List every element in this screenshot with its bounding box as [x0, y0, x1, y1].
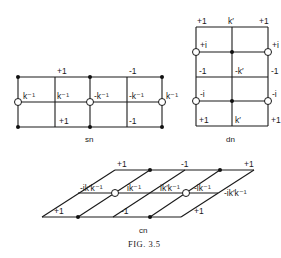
cn-caption: cn — [139, 226, 147, 235]
sn-mid-label: k⁻¹ — [23, 91, 35, 101]
cn-zero-dot — [148, 215, 152, 219]
cn-top-label: +1 — [117, 159, 127, 169]
dn-label: k′ — [228, 16, 234, 26]
dn-label: +i — [200, 40, 207, 50]
sn-mid-label: k⁻¹ — [57, 91, 69, 101]
cn-pole-circle — [112, 190, 119, 197]
cn-diagram: +1 -1 +1 -ik′k⁻¹ ik⁻¹ ik′k⁻¹ -ik⁻¹ -ik′k… — [42, 159, 254, 235]
sn-mid-label: -k⁻¹ — [129, 91, 144, 101]
dn-pole-circle — [265, 49, 272, 56]
sn-zero-dot — [88, 125, 92, 129]
dn-label: +1 — [259, 16, 269, 26]
cn-mid-label: -ik⁻¹ — [194, 183, 211, 193]
cn-zero-dot — [218, 168, 222, 172]
cn-bottom-label: +1 — [194, 206, 204, 216]
dn-pole-circle — [193, 49, 200, 56]
sn-diagram: +1 -1 k⁻¹ k⁻¹ -k⁻¹ -k⁻¹ k⁻¹ +1 -1 sn — [15, 66, 179, 144]
sn-zero-dot — [16, 125, 20, 129]
sn-zero-dot — [160, 125, 164, 129]
sn-bottom-label: +1 — [59, 116, 69, 126]
dn-pole-circle — [193, 98, 200, 105]
sn-zero-dot — [16, 75, 20, 79]
figure-caption: FIG. 3.5 — [128, 239, 161, 249]
figure-3-5: +1 -1 k⁻¹ k⁻¹ -k⁻¹ -k⁻¹ k⁻¹ +1 -1 sn +1 … — [0, 0, 281, 258]
cn-top-label: +1 — [244, 159, 254, 169]
dn-label: +1 — [271, 115, 281, 125]
cn-bottom-label: +1 — [54, 206, 64, 216]
sn-caption: sn — [85, 135, 93, 144]
dn-label: +i — [272, 40, 279, 50]
cn-pole-circle — [183, 190, 190, 197]
sn-bottom-label: -1 — [129, 116, 137, 126]
dn-diagram: +1 k′ +1 +i +i -1 -k′ -1 -i -i +1 k′ +1 … — [193, 16, 281, 144]
sn-mid-label: -k⁻¹ — [94, 91, 109, 101]
sn-zero-dot — [160, 75, 164, 79]
cn-zero-dot — [76, 215, 80, 219]
cn-mid-label: ik′k⁻¹ — [160, 183, 180, 193]
dn-label: -1 — [271, 66, 279, 76]
dn-label: -1 — [199, 66, 207, 76]
sn-zero-dot — [88, 75, 92, 79]
cn-bottom-label: -1 — [121, 206, 129, 216]
cn-top-label: -1 — [181, 159, 189, 169]
sn-mid-label: k⁻¹ — [166, 91, 178, 101]
dn-label: k′ — [235, 115, 241, 125]
sn-pole-circle — [87, 99, 94, 106]
dn-caption: dn — [226, 135, 235, 144]
dn-zero-dot — [230, 50, 234, 54]
cn-mid-label: -ik′k⁻¹ — [224, 188, 247, 198]
dn-label: -i — [272, 89, 277, 99]
dn-label: -i — [200, 89, 205, 99]
sn-pole-circle — [15, 99, 22, 106]
dn-zero-dot — [230, 99, 234, 103]
cn-mid-label: ik⁻¹ — [127, 183, 141, 193]
sn-top-label: +1 — [57, 66, 67, 76]
dn-label: -k′ — [235, 66, 244, 76]
dn-label: +1 — [197, 16, 207, 26]
cn-mid-label: -ik′k⁻¹ — [80, 183, 103, 193]
cn-zero-dot — [148, 168, 152, 172]
dn-pole-circle — [265, 98, 272, 105]
sn-pole-circle — [159, 99, 166, 106]
sn-top-label: -1 — [129, 66, 137, 76]
dn-label: +1 — [199, 115, 209, 125]
